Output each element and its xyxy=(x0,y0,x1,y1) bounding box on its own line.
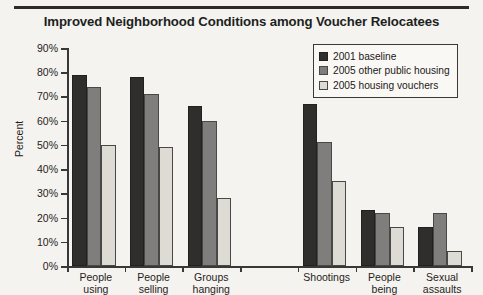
bar xyxy=(72,75,87,266)
bar-group xyxy=(188,48,232,266)
legend-item: 2005 housing vouchers xyxy=(319,78,450,93)
x-axis-tick xyxy=(67,266,69,272)
x-axis-tick xyxy=(356,266,358,272)
y-axis-tick-label: 60% xyxy=(37,115,58,127)
x-axis-tick-label: Sexualassaults xyxy=(413,272,471,295)
x-axis-tick-label: Groupshanging xyxy=(182,272,240,295)
legend-item: 2005 other public housing xyxy=(319,64,450,79)
bar xyxy=(375,213,390,266)
legend-swatch-2005-housing-vouchers xyxy=(319,81,328,90)
legend-swatch-2001-baseline xyxy=(319,52,328,61)
x-axis-tick xyxy=(125,266,127,272)
x-axis-tick-label: Peopleselling xyxy=(125,272,183,295)
top-rule xyxy=(14,6,469,9)
x-axis-tick-label: Peopleusing xyxy=(67,272,125,295)
bar xyxy=(332,181,347,266)
bar xyxy=(447,251,462,266)
y-axis-tick-label: 70% xyxy=(37,90,58,102)
chart-legend: 2001 baseline 2005 other public housing … xyxy=(313,44,458,98)
x-axis-tick xyxy=(471,266,473,272)
legend-label: 2005 other public housing xyxy=(333,65,450,76)
legend-item: 2001 baseline xyxy=(319,49,450,64)
x-axis-line xyxy=(67,266,471,268)
bar xyxy=(130,77,145,266)
bar xyxy=(418,227,433,266)
y-axis-tick-label: 80% xyxy=(37,66,58,78)
bar xyxy=(101,145,116,266)
x-axis-tick xyxy=(298,266,300,272)
y-axis-tick-label: 20% xyxy=(37,212,58,224)
bar xyxy=(390,227,405,266)
bar xyxy=(303,104,318,266)
x-axis-tick xyxy=(240,266,242,272)
x-axis-tick-label: Peoplebeing xyxy=(356,272,414,295)
bar xyxy=(87,87,102,266)
y-axis-tick-label: 40% xyxy=(37,163,58,175)
y-axis-tick-label: 0% xyxy=(43,260,58,272)
bar-group xyxy=(130,48,174,266)
bar-group xyxy=(245,48,289,266)
x-axis-tick-label: Shootings xyxy=(298,272,356,284)
y-axis-tick-label: 50% xyxy=(37,139,58,151)
legend-label: 2005 housing vouchers xyxy=(333,80,438,91)
x-axis-tick xyxy=(182,266,184,272)
y-axis-tick-label: 10% xyxy=(37,236,58,248)
chart-title: Improved Neighborhood Conditions among V… xyxy=(0,14,483,29)
bar-group xyxy=(72,48,116,266)
bar xyxy=(202,121,217,266)
bar xyxy=(217,198,232,266)
bar xyxy=(317,142,332,266)
y-axis-title: Percent xyxy=(13,121,25,157)
bar xyxy=(144,94,159,266)
y-axis-tick-label: 30% xyxy=(37,187,58,199)
bar xyxy=(361,210,376,266)
bar xyxy=(188,106,203,266)
legend-label: 2001 baseline xyxy=(333,51,396,62)
x-axis-tick xyxy=(413,266,415,272)
legend-swatch-2005-other-public-housing xyxy=(319,66,328,75)
bar xyxy=(433,213,448,266)
bar xyxy=(159,147,174,266)
y-axis-tick-label: 90% xyxy=(37,42,58,54)
